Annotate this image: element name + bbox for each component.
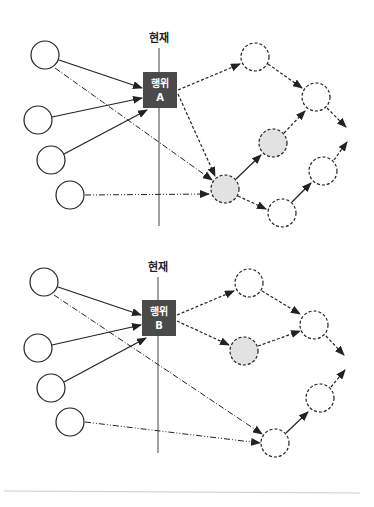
diagram-canvas: 현재 행위 A (0, 0, 374, 507)
divider (4, 491, 360, 493)
future-event-node (300, 311, 328, 339)
now-label-a: 현재 (149, 31, 169, 45)
past-event-node (31, 41, 59, 69)
future-event-node (306, 384, 334, 412)
past-event-node (24, 334, 52, 362)
dashed-arrow (238, 196, 266, 209)
dashed-arrow (258, 331, 300, 346)
solid-arrow (58, 287, 141, 315)
dashed-arrow (327, 108, 346, 127)
dashed-arrow (331, 370, 345, 387)
past-event-node (30, 268, 58, 296)
dashed-arrow (177, 321, 229, 345)
solid-arrow (292, 183, 311, 202)
solid-arrow (286, 412, 308, 433)
future-event-node (309, 157, 337, 185)
dashed-arrow (326, 336, 344, 355)
past-event-node (37, 374, 65, 402)
dashed-arrow (268, 64, 302, 88)
dashed-arrow (284, 111, 305, 133)
action-box-b-id: B (155, 320, 163, 331)
highlighted-future-node (211, 175, 239, 203)
past-event-node (37, 146, 65, 174)
future-event-node (241, 43, 269, 71)
dashed-arrow (334, 142, 347, 160)
action-box-a-label: 행위 (151, 77, 169, 89)
future-event-node (268, 199, 296, 227)
future-event-node (261, 429, 289, 457)
highlighted-future-node (259, 129, 287, 157)
dashed-arrow (178, 94, 215, 176)
solid-arrow (64, 338, 146, 382)
diagram-a: 현재 행위 A (24, 31, 347, 227)
solid-arrow (59, 60, 142, 88)
past-event-node (24, 106, 52, 134)
solid-arrow (64, 110, 147, 154)
future-event-node (302, 83, 330, 111)
action-box-a-id: A (156, 92, 164, 103)
solid-arrow (52, 98, 142, 117)
solid-arrow (52, 325, 141, 345)
dashed-arrow (177, 291, 234, 315)
diagram-b: 현재 행위 B (24, 260, 345, 457)
dashed-arrow (178, 64, 240, 90)
past-event-node (56, 181, 84, 209)
dashdot-arrow (85, 422, 260, 443)
highlighted-future-node (230, 337, 258, 365)
dashed-arrow (262, 291, 300, 314)
action-box-b-label: 행위 (150, 305, 168, 317)
dashdot-arrow (85, 194, 209, 195)
solid-arrow (236, 155, 261, 179)
past-event-node (56, 408, 84, 436)
future-event-node (235, 269, 263, 297)
now-label-b: 현재 (148, 260, 168, 274)
